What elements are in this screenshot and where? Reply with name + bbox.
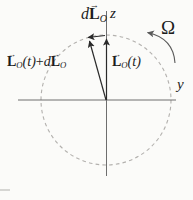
vector-arrow-glyph: → [8, 51, 16, 59]
vector-dL [88, 36, 105, 38]
dL-label: d→LO [81, 6, 107, 24]
vector-arrow-glyph: → [113, 51, 121, 59]
z-axis-label: z [110, 6, 116, 21]
vector-arrow-glyph: → [51, 51, 59, 59]
L-plus-dL-label-plus: + [36, 54, 44, 69]
omega-label: Ω [161, 18, 175, 37]
L-plus-dL-label: →LO(t)+d→LO [7, 55, 66, 70]
vector-arrow-glyph: → [90, 1, 99, 10]
L-of-t-label-t: (t) [128, 54, 141, 69]
dL-label-sub: O [100, 13, 107, 24]
vector-L-plus-dL [90, 41, 107, 100]
L-plus-dL-label-t: (t) [23, 54, 36, 69]
scan-artifact-line [0, 189, 10, 191]
L-plus-dL-label-sub2: O [60, 60, 66, 70]
dL-label-d: d [81, 5, 89, 22]
precession-diagram: d→LO z Ω y →LO(t)+d→LO →LO(t) [0, 0, 193, 200]
L-plus-dL-label-d: d [44, 54, 51, 69]
L-of-t-label: →LO(t) [112, 55, 141, 70]
y-axis-label: y [177, 77, 184, 92]
